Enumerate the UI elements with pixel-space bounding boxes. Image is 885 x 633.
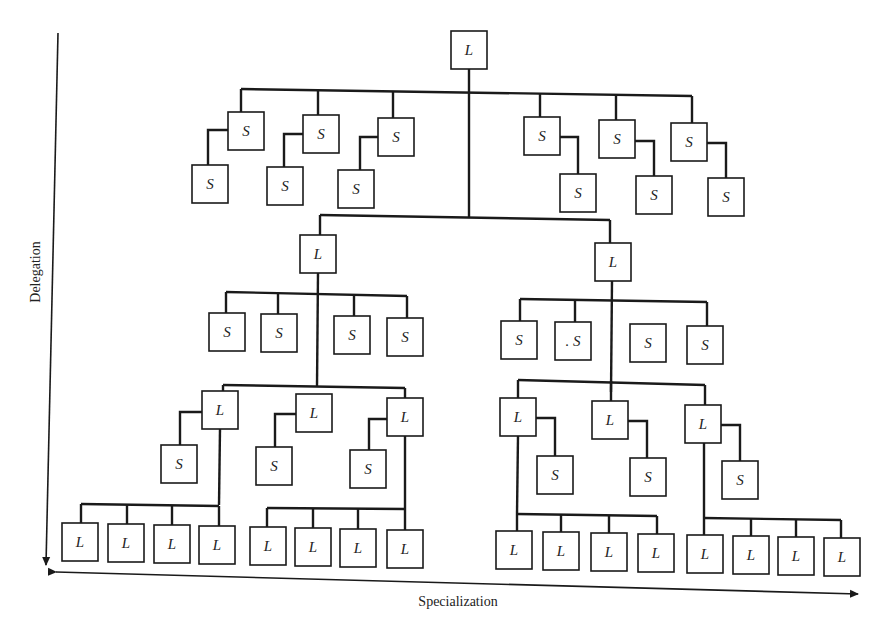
node-label: L <box>353 540 362 556</box>
node-label: S <box>270 458 278 474</box>
node-label: L <box>605 412 614 428</box>
node-label: L <box>121 535 130 551</box>
s-node-box: S <box>708 178 744 216</box>
l-node-box: L <box>199 526 235 564</box>
s-node-box: S <box>378 118 414 156</box>
l-node-box: L <box>387 398 423 436</box>
s-node-box: S <box>537 456 573 494</box>
node-label: S <box>401 329 409 345</box>
l-node-box: L <box>496 531 532 569</box>
node-label: S <box>644 335 652 351</box>
l-node-box: L <box>250 527 286 565</box>
s-node-box: S <box>303 115 339 153</box>
connector-line <box>360 137 378 170</box>
l-node-box: L <box>387 530 423 568</box>
node-label: S <box>352 181 360 197</box>
node-label: L <box>608 254 617 270</box>
node-label: S <box>736 472 744 488</box>
node-label: S <box>551 467 559 483</box>
connector-line <box>520 299 707 302</box>
s-node-box: S <box>599 120 635 158</box>
connector-line <box>536 418 555 456</box>
node-label: S <box>242 123 250 139</box>
s-node-box: S <box>630 324 666 362</box>
connector-line <box>219 429 220 505</box>
node-label: L <box>212 537 221 553</box>
specialization-axis-label: Specialization <box>418 594 497 609</box>
node-label: L <box>400 409 409 425</box>
connector-line <box>517 436 518 514</box>
s-node-box: S <box>630 458 666 496</box>
l-node-box: L <box>638 534 674 572</box>
node-label: L <box>791 548 800 564</box>
node-label: L <box>513 409 522 425</box>
node-label: S <box>317 126 325 142</box>
s-node-box: S <box>261 314 297 352</box>
node-label: S <box>722 189 730 205</box>
connector-line <box>369 419 387 450</box>
node-label: S <box>574 185 582 201</box>
s-node-box: S <box>334 316 370 354</box>
l-node-box: L <box>591 533 627 571</box>
node-label: L <box>746 547 755 563</box>
node-label: . S <box>566 333 582 349</box>
s-node-box: . S <box>555 322 591 360</box>
delegation-axis-arrow <box>46 33 58 565</box>
connector-line <box>241 89 692 96</box>
connector-line <box>704 518 841 520</box>
node-label: S <box>175 456 183 472</box>
node-label: L <box>215 402 224 418</box>
node-label: L <box>309 405 318 421</box>
s-node-box: S <box>722 461 758 499</box>
node-label: S <box>392 129 400 145</box>
node-label: L <box>464 42 473 58</box>
node-label: S <box>223 324 231 340</box>
node-label: S <box>515 332 523 348</box>
node-label: L <box>509 542 518 558</box>
l-node-box: L <box>824 538 860 576</box>
connector-line <box>317 273 318 386</box>
s-node-box: S <box>636 176 672 214</box>
node-label: S <box>538 128 546 144</box>
s-node-box: S <box>687 326 723 364</box>
node-label: L <box>651 545 660 561</box>
node-label: L <box>313 246 322 262</box>
l-node-box: L <box>108 524 144 562</box>
connector-line <box>180 412 202 445</box>
node-boxes: LSSSSSSSSSSSSLLSSSSS. SSSLLLSSSLLLSSSLLL… <box>62 31 860 576</box>
node-label: L <box>308 539 317 555</box>
l-node-box: L <box>296 394 332 432</box>
connector-line <box>707 143 726 178</box>
connector-line <box>721 425 740 461</box>
node-label: S <box>644 469 652 485</box>
s-node-box: S <box>671 123 707 161</box>
s-node-box: S <box>192 165 228 203</box>
connector-line <box>284 134 303 167</box>
l-node-box: L <box>340 529 376 567</box>
connector-line <box>208 130 228 165</box>
node-label: S <box>364 461 372 477</box>
node-label: S <box>206 176 214 192</box>
node-label: L <box>556 543 565 559</box>
connector-line <box>320 215 610 220</box>
node-label: L <box>167 536 176 552</box>
s-node-box: S <box>560 174 596 212</box>
s-node-box: S <box>338 170 374 208</box>
connector-line <box>275 414 296 447</box>
l-node-box: L <box>202 391 238 429</box>
specialization-axis-arrow <box>56 572 858 594</box>
node-label: L <box>604 544 613 560</box>
node-label: S <box>348 327 356 343</box>
delegation-specialization-tree-diagram: LSSSSSSSSSSSSLLSSSSS. SSSLLLSSSLLLSSSLLL… <box>0 0 885 633</box>
node-label: S <box>650 187 658 203</box>
l-node-box: L <box>733 536 769 574</box>
node-label: S <box>281 178 289 194</box>
delegation-axis-label: Delegation <box>28 241 43 302</box>
node-label: L <box>700 546 709 562</box>
l-node-box: L <box>592 401 628 439</box>
s-node-box: S <box>524 117 560 155</box>
connector-line <box>628 421 647 458</box>
connector-line <box>611 281 612 392</box>
l-node-box: L <box>778 537 814 575</box>
l-node-box: L <box>300 235 336 273</box>
